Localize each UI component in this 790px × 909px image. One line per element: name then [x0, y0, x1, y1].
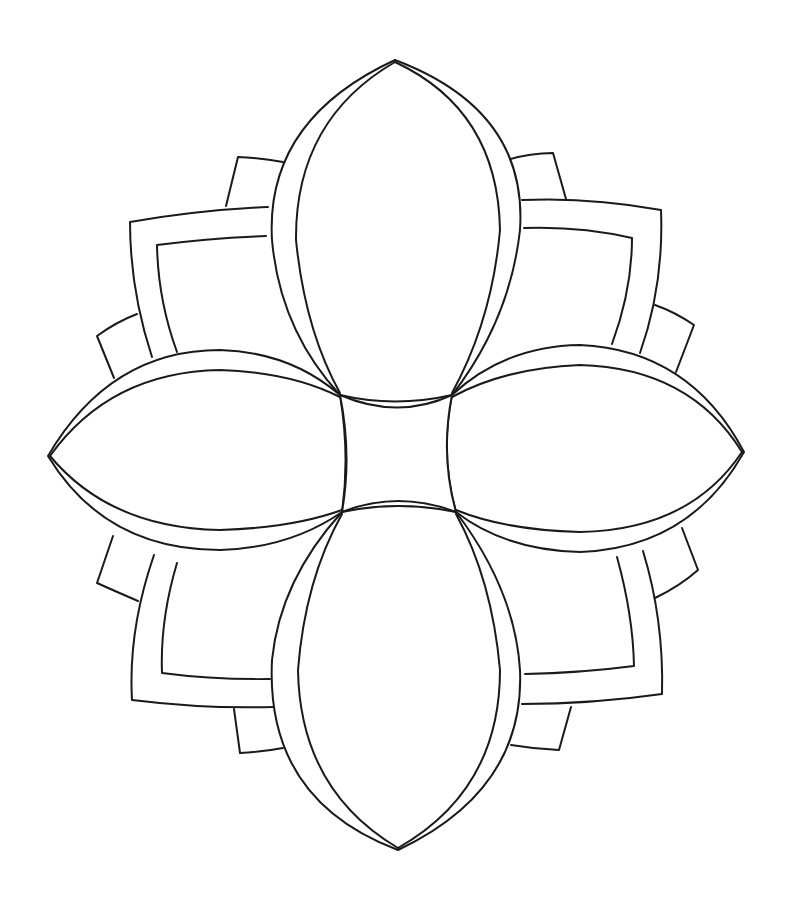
petal-left: [48, 350, 346, 550]
coloring-page-canvas: Line-art flower coloring page: [0, 0, 790, 909]
petal-bottom: [272, 506, 521, 850]
flower-center: [340, 395, 456, 512]
corner-frame-top-left: [97, 157, 283, 378]
corner-frame-bottom-right: [511, 528, 698, 750]
petal-right: [447, 345, 744, 552]
flower-drawing: [0, 0, 790, 909]
petal-top: [272, 60, 521, 402]
corner-frame-bottom-left: [97, 536, 283, 753]
corner-frame-top-right: [507, 153, 694, 372]
